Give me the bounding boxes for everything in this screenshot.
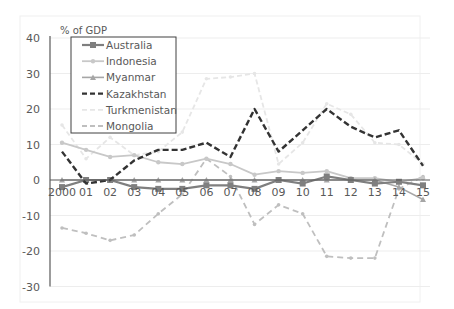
dot-marker — [373, 141, 377, 145]
dot-marker — [108, 136, 112, 140]
x-tick-label: 06 — [199, 186, 213, 199]
square-marker — [90, 42, 96, 48]
y-tick-label: 10 — [26, 139, 40, 152]
x-tick-label: 02 — [103, 186, 117, 199]
dot-marker — [60, 123, 64, 127]
plus-marker — [300, 171, 304, 175]
legend-label: Turkmenistan — [105, 104, 177, 116]
series-line — [62, 143, 423, 182]
square-marker — [324, 173, 330, 179]
line-chart: % of GDP 403020100-10-20-30 200001020304… — [0, 0, 454, 309]
dot-marker — [84, 231, 88, 235]
x-tick-label: 04 — [151, 186, 165, 199]
dot-marker — [84, 157, 88, 161]
series-mongolia — [60, 157, 425, 260]
plus-marker — [228, 162, 232, 166]
x-tick-label: 05 — [175, 186, 189, 199]
x-tick-label: 11 — [320, 186, 334, 199]
dot-marker — [156, 212, 160, 216]
x-tick-label: 10 — [296, 186, 310, 199]
plus-marker — [84, 148, 88, 152]
dot-marker — [325, 255, 329, 259]
dot-marker — [132, 233, 136, 237]
dot-marker — [301, 141, 305, 145]
chart-canvas: % of GDP 403020100-10-20-30 200001020304… — [0, 0, 454, 309]
dot-marker — [349, 113, 353, 117]
plus-marker — [108, 155, 112, 159]
x-tick-label: 07 — [223, 186, 237, 199]
legend: AustraliaIndonesiaMyanmarKazakhstanTurkm… — [71, 37, 177, 133]
y-tick-label: 0 — [33, 174, 40, 187]
dot-marker — [373, 256, 377, 260]
dot-marker — [60, 226, 64, 230]
legend-label: Australia — [106, 39, 152, 51]
legend-box — [71, 37, 176, 133]
plus-marker — [204, 157, 208, 161]
dot-marker — [301, 212, 305, 216]
x-tick-label: 03 — [127, 186, 141, 199]
plus-marker — [276, 169, 280, 173]
y-tick-label: -30 — [22, 281, 40, 294]
plus-marker — [132, 153, 136, 157]
series-indonesia — [60, 141, 425, 184]
dot-marker — [253, 72, 257, 76]
x-tick-label: 14 — [392, 186, 406, 199]
dot-marker — [397, 143, 401, 147]
dot-marker — [277, 203, 281, 207]
x-tick-label: 12 — [344, 186, 358, 199]
plus-marker — [60, 141, 64, 145]
legend-label: Kazakhstan — [106, 88, 167, 100]
x-tick-label: 2000 — [48, 186, 76, 199]
x-tick-label: 13 — [368, 186, 382, 199]
x-tick-label: 01 — [79, 186, 93, 199]
x-tick-label: 08 — [248, 186, 262, 199]
plus-marker — [91, 59, 95, 63]
y-tick-label: 40 — [26, 32, 40, 45]
y-tick-label: -10 — [22, 210, 40, 223]
plus-marker — [252, 172, 256, 176]
dot-marker — [181, 130, 185, 134]
dot-marker — [349, 256, 353, 260]
dot-marker — [108, 239, 112, 243]
legend-label: Myanmar — [106, 71, 156, 83]
x-tick-label: 09 — [272, 186, 286, 199]
y-tick-label: 30 — [26, 68, 40, 81]
y-axis-ticks: 403020100-10-20-30 — [22, 32, 40, 294]
y-axis-label: % of GDP — [60, 25, 107, 36]
legend-label: Indonesia — [106, 55, 157, 67]
y-tick-label: -20 — [22, 245, 40, 258]
plus-marker — [156, 160, 160, 164]
plus-marker — [325, 169, 329, 173]
dot-marker — [253, 223, 257, 227]
dot-marker — [205, 77, 209, 81]
y-tick-label: 20 — [26, 103, 40, 116]
plus-marker — [180, 162, 184, 166]
dot-marker — [277, 162, 281, 166]
legend-label: Mongolia — [106, 120, 154, 132]
x-tick-label: 15 — [416, 186, 430, 199]
dot-marker — [325, 102, 329, 106]
x-axis-ticks: 2000010203040506070809101112131415 — [48, 186, 430, 199]
dot-marker — [229, 75, 233, 79]
